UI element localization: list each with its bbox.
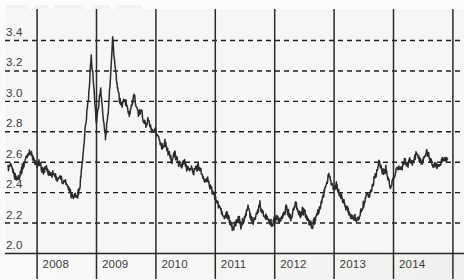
chart-plot bbox=[0, 0, 464, 280]
y-tick-label-2.2: 2.2 bbox=[6, 209, 23, 221]
x-tick-label-2008: 2008 bbox=[43, 258, 69, 270]
y-tick-label-2.4: 2.4 bbox=[6, 178, 23, 190]
x-tick-label-2012: 2012 bbox=[280, 258, 306, 270]
x-tick-label-2009: 2009 bbox=[102, 258, 128, 270]
y-tick-label-3.4: 3.4 bbox=[6, 26, 23, 38]
x-tick-label-2011: 2011 bbox=[221, 258, 247, 270]
x-tick-label-2013: 2013 bbox=[340, 258, 366, 270]
y-tick-label-2.8: 2.8 bbox=[6, 117, 23, 129]
x-tick-label-2014: 2014 bbox=[399, 258, 425, 270]
chart-container: 3.43.23.02.82.62.42.22.0 200820092010201… bbox=[0, 0, 464, 280]
y-tick-label-2.6: 2.6 bbox=[6, 148, 23, 160]
x-tick-label-2010: 2010 bbox=[161, 258, 187, 270]
y-tick-label-3.2: 3.2 bbox=[6, 56, 23, 68]
y-tick-label-3.0: 3.0 bbox=[6, 87, 23, 99]
plot-background bbox=[5, 9, 464, 253]
y-tick-label-2.0: 2.0 bbox=[6, 239, 23, 251]
